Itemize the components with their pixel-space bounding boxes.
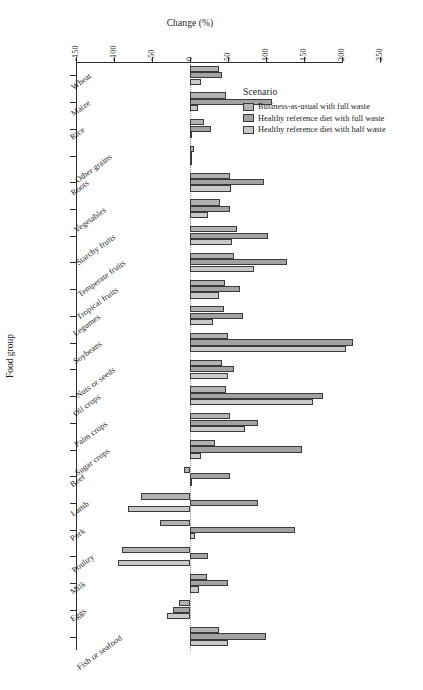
bar — [179, 600, 190, 606]
bar — [190, 553, 208, 559]
legend-entry: Healthy reference diet with full waste — [243, 114, 418, 123]
legend-entry: Business-as-usual with full waste — [243, 102, 418, 111]
bar — [190, 473, 230, 479]
x-tick-label: -150 — [71, 45, 80, 61]
bar — [190, 319, 213, 325]
x-tick-label: 0 — [185, 57, 194, 61]
legend-title: Scenario — [243, 86, 418, 97]
bar — [160, 520, 190, 526]
y-tick — [70, 637, 76, 638]
bar — [190, 66, 219, 72]
y-axis-title: Food group — [5, 334, 15, 378]
bar — [190, 386, 226, 392]
bar — [190, 206, 230, 212]
y-tick — [70, 209, 76, 210]
bar — [190, 586, 199, 592]
y-tick — [70, 156, 76, 157]
x-tick-label: -50 — [147, 49, 156, 61]
bar — [118, 560, 190, 566]
bar — [190, 239, 232, 245]
bar — [190, 132, 192, 138]
x-tick-label: 200 — [337, 48, 346, 61]
bar — [190, 126, 211, 132]
bar — [190, 580, 228, 586]
bar — [184, 467, 190, 473]
y-category-label: Fish or seafood — [76, 633, 124, 672]
x-axis-title: Change (%) — [167, 18, 214, 28]
x-tick-label: 250 — [375, 48, 384, 61]
bar — [190, 313, 243, 319]
bar — [190, 212, 208, 218]
y-category-label: Pork — [68, 526, 86, 543]
y-tick — [70, 450, 76, 451]
bar — [190, 280, 225, 286]
y-category-label: Vegetables — [72, 205, 107, 234]
y-category-label: Starchy fruits — [74, 232, 117, 267]
y-tick — [70, 396, 76, 397]
bar — [190, 185, 231, 191]
y-tick — [70, 369, 76, 370]
y-category-label: Beef — [68, 473, 86, 490]
x-tick-label: 50 — [223, 52, 232, 61]
y-tick — [70, 556, 76, 557]
bar — [190, 306, 224, 312]
bar — [190, 413, 230, 419]
bar — [190, 500, 258, 506]
bar — [190, 119, 204, 125]
bar — [190, 633, 266, 639]
y-category-label: Eggs — [69, 606, 88, 623]
y-category-label: Palm crops — [73, 419, 109, 449]
y-category-label: Rice — [68, 125, 86, 142]
bar — [190, 199, 220, 205]
y-tick — [70, 182, 76, 183]
legend-entries: Business-as-usual with full wasteHealthy… — [243, 102, 418, 134]
y-tick — [70, 262, 76, 263]
legend-swatch — [243, 114, 254, 122]
figure-caption — [16, 676, 416, 688]
bar — [190, 453, 201, 459]
bar — [190, 393, 323, 399]
bar — [190, 360, 222, 366]
bar — [190, 159, 192, 165]
y-tick — [70, 423, 76, 424]
bar — [190, 266, 254, 272]
bar — [167, 613, 190, 619]
bar — [190, 105, 198, 111]
bar — [128, 506, 190, 512]
bar — [190, 146, 194, 152]
legend: Scenario Business-as-usual with full was… — [243, 86, 418, 137]
bar — [190, 527, 295, 533]
bar — [190, 479, 192, 485]
bar — [190, 373, 228, 379]
y-category-label: Milk — [69, 580, 88, 597]
bar — [190, 173, 230, 179]
bar — [141, 493, 190, 499]
legend-swatch — [243, 126, 254, 134]
bar — [190, 446, 302, 452]
bar — [190, 440, 215, 446]
bar — [190, 366, 234, 372]
bar — [190, 259, 287, 265]
bar — [190, 533, 195, 539]
y-category-label: Other grains — [74, 152, 114, 184]
bar — [190, 92, 226, 98]
legend-label: Healthy reference diet with full waste — [258, 114, 384, 123]
bar — [190, 339, 353, 345]
bar — [190, 640, 228, 646]
bar — [190, 333, 228, 339]
x-tick-label: 150 — [299, 48, 308, 61]
bar — [190, 72, 222, 78]
bar — [173, 607, 190, 613]
legend-swatch — [243, 103, 254, 111]
bar — [190, 253, 234, 259]
y-category-label: Sugar crops — [73, 446, 111, 477]
x-tick-label: 100 — [261, 48, 270, 61]
bar — [190, 420, 258, 426]
bar — [190, 292, 219, 298]
y-tick — [70, 289, 76, 290]
bar — [190, 426, 245, 432]
bar — [190, 399, 313, 405]
y-tick — [70, 75, 76, 76]
legend-entry: Healthy reference diet with half waste — [243, 125, 418, 134]
bar — [190, 286, 240, 292]
